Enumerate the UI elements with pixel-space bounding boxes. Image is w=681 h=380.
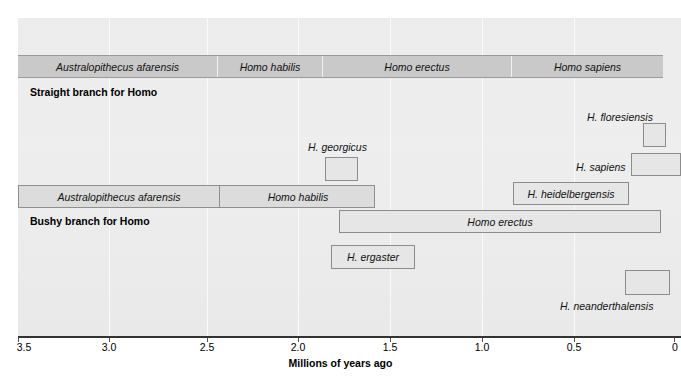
straight-branch-caption: Straight branch for Homo [30, 86, 157, 98]
x-tick-label-1.5: 1.5 [383, 341, 398, 353]
x-tick-label-3.0: 3.0 [102, 341, 117, 353]
bar-segment-homo-erectus: Homo erectus [323, 56, 512, 77]
bar-segment-homo-sapiens: Homo sapiens [512, 56, 663, 77]
x-axis-line [18, 336, 681, 338]
bar-segment-label: Australopithecus afarensis [56, 61, 179, 73]
label-h-floresiensis: H. floresiensis [587, 111, 653, 123]
x-tick-label-2.0: 2.0 [291, 341, 306, 353]
bar-segment-label: Australopithecus afarensis [57, 191, 180, 203]
bushy-branch-caption: Bushy branch for Homo [30, 215, 150, 227]
x-tick-label-3.5: 3.5 [17, 341, 32, 353]
bar-segment-label: Homo erectus [384, 61, 449, 73]
x-tick-label-0.5: 0.5 [567, 341, 582, 353]
box-homo-erectus-bushy: Homo erectus [339, 210, 661, 233]
bar2-segment-homo-habilis: Homo habilis [220, 186, 376, 207]
bar2-segment-australopithecus-afarensis: Australopithecus afarensis [19, 186, 220, 207]
box-h-georgicus [325, 157, 358, 181]
bar-segment-label: Homo sapiens [554, 61, 621, 73]
x-tick-label-1.0: 1.0 [475, 341, 490, 353]
straight-branch-bar: Australopithecus afarensis Homo habilis … [18, 55, 663, 78]
evolution-timeline-figure: Australopithecus afarensis Homo habilis … [0, 0, 681, 380]
box-h-neanderthalensis [625, 270, 670, 295]
label-h-georgicus: H. georgicus [308, 141, 367, 153]
box-label: Homo erectus [467, 216, 532, 228]
x-tick-label-2.5: 2.5 [200, 341, 215, 353]
bushy-branch-bar: Australopithecus afarensis Homo habilis [18, 185, 375, 208]
x-axis-title: Millions of years ago [0, 357, 681, 369]
label-h-sapiens: H. sapiens [576, 161, 626, 173]
bar-segment-label: Homo habilis [240, 61, 301, 73]
bar-segment-homo-habilis: Homo habilis [218, 56, 323, 77]
box-h-sapiens [631, 153, 681, 176]
bar-segment-australopithecus-afarensis: Australopithecus afarensis [18, 56, 218, 77]
bar-segment-label: Homo habilis [268, 191, 329, 203]
box-h-floresiensis [643, 123, 666, 147]
label-h-neanderthalensis: H. neanderthalensis [560, 300, 653, 312]
box-h-ergaster: H. ergaster [331, 245, 415, 269]
box-label: H. ergaster [347, 251, 399, 263]
x-tick-label-0: 0 [672, 341, 678, 353]
box-label: H. heidelbergensis [528, 188, 615, 200]
box-h-heidelbergensis: H. heidelbergensis [513, 182, 629, 205]
